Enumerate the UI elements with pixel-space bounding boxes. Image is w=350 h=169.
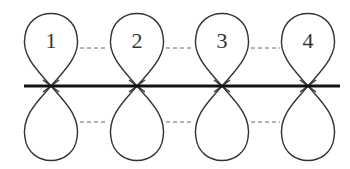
orbital-label: 2	[132, 28, 143, 53]
orbital-label: 3	[217, 28, 228, 53]
orbital-lower-lobe	[24, 80, 77, 161]
orbital-diagram: 1234	[0, 0, 350, 169]
orbital-lower-lobe	[281, 80, 334, 161]
orbital-label: 1	[46, 28, 57, 53]
orbital-label: 4	[303, 28, 314, 53]
orbital-lower-lobe	[195, 80, 248, 161]
orbital-lower-lobe	[110, 80, 163, 161]
